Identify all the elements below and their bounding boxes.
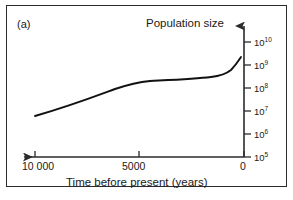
y-tick-exponent: 6 <box>265 128 269 135</box>
y-tick-mantissa: 10 <box>254 37 265 48</box>
y-tick-mantissa: 10 <box>254 83 265 94</box>
y-tick-exponent: 8 <box>265 82 269 89</box>
y-tick-mantissa: 10 <box>254 152 265 163</box>
x-axis-title: Time before present (years) <box>66 177 207 189</box>
y-tick-exponent: 5 <box>265 151 269 158</box>
y-tick-label-10e7: 107 <box>254 107 268 117</box>
y-tick-exponent: 9 <box>265 59 269 66</box>
y-tick-label-10e5: 105 <box>254 153 268 163</box>
population-curve <box>35 57 241 116</box>
y-tick-mantissa: 10 <box>254 106 265 117</box>
y-tick-label-10e9: 109 <box>254 61 268 71</box>
x-tick-label-10000: 10 000 <box>22 161 54 172</box>
y-tick-exponent: 7 <box>265 105 269 112</box>
y-axis-title: Population size <box>146 18 224 30</box>
y-axis-ticks <box>244 42 251 157</box>
y-tick-mantissa: 10 <box>254 129 265 140</box>
y-tick-label-10e6: 106 <box>254 130 268 140</box>
figure-panel-a: (a) Population size Time before present … <box>0 0 293 200</box>
y-tick-label-10e10: 1010 <box>254 38 272 48</box>
y-tick-mantissa: 10 <box>254 60 265 71</box>
x-tick-label-0: 0 <box>240 161 246 172</box>
y-tick-label-10e8: 108 <box>254 84 268 94</box>
x-axis-ticks <box>35 151 244 157</box>
panel-label: (a) <box>17 19 30 30</box>
x-tick-label-5000: 5000 <box>122 161 145 172</box>
y-tick-exponent: 10 <box>265 36 272 43</box>
